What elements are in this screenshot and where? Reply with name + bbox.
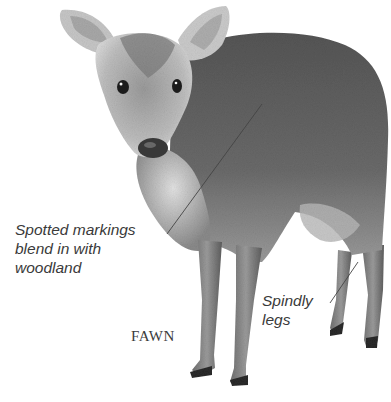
annotation-legs: Spindly legs (262, 291, 342, 329)
eye-left (117, 80, 129, 94)
hind-leg-right (362, 245, 384, 346)
fawn-illustration: Spotted markings blend in with woodland … (0, 0, 391, 402)
annotation-markings: Spotted markings blend in with woodland (15, 220, 185, 277)
nose (138, 138, 168, 158)
front-leg-right (230, 245, 262, 385)
image-title: FAWN (131, 328, 175, 345)
front-leg-left (192, 240, 222, 374)
fawn-drawing (0, 0, 391, 402)
hoof (366, 336, 378, 348)
eye-right (172, 79, 182, 93)
